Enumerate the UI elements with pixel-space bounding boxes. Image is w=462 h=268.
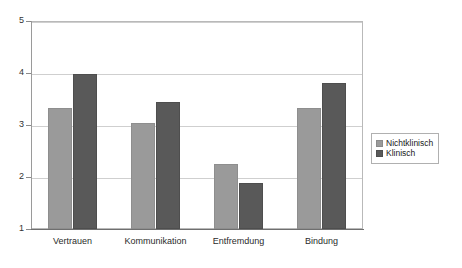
bar-group [131, 21, 180, 229]
y-tick-label: 1 [8, 224, 24, 233]
x-axis-label: Entfremdung [197, 236, 280, 246]
legend-item: Nichtklinisch [376, 139, 433, 148]
y-tick-mark [26, 229, 31, 230]
bar [322, 83, 346, 229]
y-tick-label: 3 [8, 120, 24, 129]
y-tick-label: 5 [8, 16, 24, 25]
bar [297, 108, 321, 229]
bar-group [48, 21, 97, 229]
y-tick-label: 2 [8, 172, 24, 181]
bars-layer [31, 21, 363, 229]
y-tick-label: 4 [8, 68, 24, 77]
legend-item: Klinisch [376, 149, 433, 158]
bar [48, 108, 72, 229]
legend-item-label: Klinisch [386, 149, 415, 158]
legend-item-label: Nichtklinisch [386, 139, 433, 148]
light-gray-swatch-icon [376, 140, 383, 147]
bar-group [297, 21, 346, 229]
x-axis-line [31, 229, 364, 230]
bar [156, 102, 180, 229]
bar [73, 74, 97, 229]
dark-gray-swatch-icon [376, 150, 383, 157]
x-axis-label: Bindung [280, 236, 363, 246]
chart-legend: NichtklinischKlinisch [371, 133, 439, 164]
x-axis-label: Vertrauen [31, 236, 114, 246]
bar-group [214, 21, 263, 229]
bar [131, 123, 155, 229]
bar-chart: 54321 VertrauenKommunikationEntfremdungB… [0, 0, 462, 268]
bar [239, 183, 263, 229]
x-axis-label: Kommunikation [114, 236, 197, 246]
bar [214, 164, 238, 229]
